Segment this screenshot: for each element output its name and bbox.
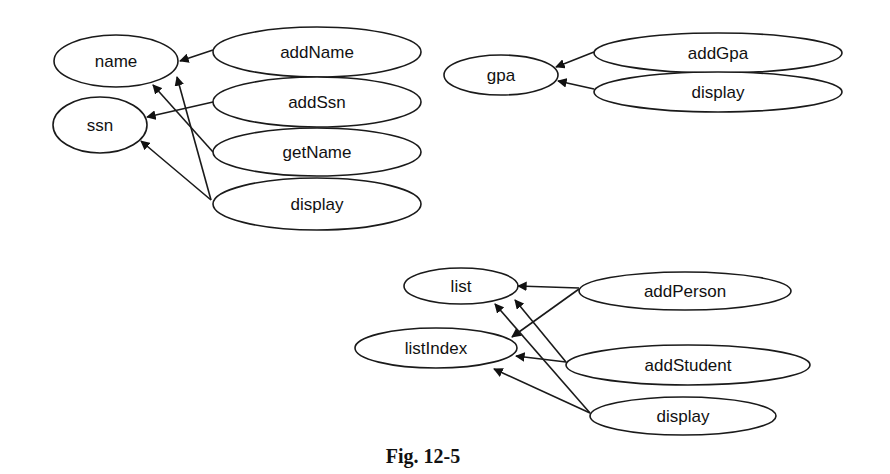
node-label: ssn [87, 116, 113, 135]
arrow-edge [141, 141, 211, 200]
edge-group-student [556, 52, 594, 89]
node-group-student: gpaaddGpadisplay [444, 33, 842, 112]
node-label: addStudent [645, 356, 732, 375]
arrow-edge [177, 77, 211, 200]
arrow-edge [494, 369, 590, 413]
node-label: addGpa [688, 44, 749, 63]
method-node-display_person: display [213, 178, 421, 230]
attribute-node-listIndex: listIndex [355, 328, 517, 368]
arrow-edge [515, 300, 566, 362]
node-label: gpa [487, 66, 516, 85]
node-label: getName [283, 143, 352, 162]
edge-display-to-ssn [141, 141, 211, 200]
edge-display-to-gpa [558, 81, 594, 89]
arrow-edge [556, 52, 594, 67]
edge-getName-to-name [153, 85, 213, 152]
method-node-display_list: display [590, 397, 776, 435]
method-node-getName: getName [213, 128, 421, 176]
method-node-display_student: display [594, 72, 842, 112]
node-label: display [657, 407, 710, 426]
edge-display-to-name [177, 77, 211, 200]
node-label: list [451, 277, 472, 296]
arrow-edge [512, 289, 579, 337]
edge-addName-to-name [180, 50, 213, 61]
edge-addGpa-to-gpa [556, 52, 594, 67]
arrow-edge [180, 50, 213, 61]
node-label: display [291, 195, 344, 214]
method-node-addGpa: addGpa [594, 33, 842, 73]
arrow-edge [153, 85, 213, 152]
node-label: name [95, 52, 138, 71]
method-node-addPerson: addPerson [579, 272, 791, 310]
method-node-addName: addName [213, 27, 421, 77]
arrow-edge [558, 81, 594, 89]
edge-addStudent-to-list [515, 300, 566, 362]
node-label: addSsn [288, 93, 346, 112]
attribute-node-list: list [404, 268, 518, 304]
nodes-layer: namessnaddNameaddSsngetNamedisplaygpaadd… [53, 27, 842, 435]
attribute-node-name: name [54, 35, 178, 87]
attribute-node-gpa: gpa [444, 55, 558, 95]
node-label: listIndex [405, 339, 468, 358]
figure-caption: Fig. 12-5 [386, 445, 460, 468]
attribute-node-ssn: ssn [53, 97, 147, 153]
method-node-addStudent: addStudent [566, 345, 810, 385]
node-label: display [692, 83, 745, 102]
node-label: addName [280, 43, 354, 62]
figure-canvas: namessnaddNameaddSsngetNamedisplaygpaadd… [0, 0, 890, 474]
method-node-addSsn: addSsn [213, 77, 421, 127]
edge-addPerson-to-list [518, 286, 579, 288]
arrow-edge [518, 286, 579, 288]
node-label: addPerson [644, 282, 726, 301]
edge-display-to-listIndex [494, 369, 590, 413]
edge-addPerson-to-listIndex [512, 289, 579, 337]
node-group-person: namessnaddNameaddSsngetNamedisplay [53, 27, 421, 230]
